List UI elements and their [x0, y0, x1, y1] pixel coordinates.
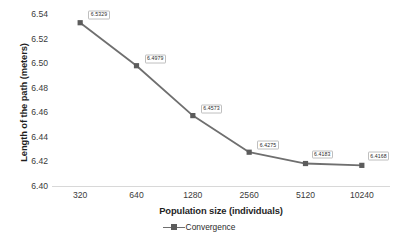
data-point-marker: [247, 150, 252, 155]
data-point-marker: [303, 161, 308, 166]
x-tick-label: 320: [73, 190, 87, 200]
data-point-label: 6.4979: [145, 54, 166, 63]
y-tick-label: 6.50: [8, 58, 48, 68]
legend-line-marker-icon: [163, 223, 185, 232]
data-point-label: 6.4573: [201, 104, 222, 113]
plot-area: 6.53296.49796.45736.42756.41836.4168: [52, 14, 390, 187]
x-tick-label: 5120: [296, 190, 315, 200]
data-point-marker: [134, 63, 139, 68]
convergence-markers: [78, 20, 365, 168]
x-axis-title: Population size (individuals): [52, 205, 390, 216]
data-point-label: 6.4275: [257, 141, 278, 150]
x-tick-label: 10240: [350, 190, 374, 200]
data-point-marker: [78, 20, 83, 25]
data-point-label: 6.4168: [368, 152, 389, 161]
x-tick-label: 640: [129, 190, 143, 200]
y-tick-label: 6.44: [8, 132, 48, 142]
x-axis-tick-labels: 32064012802560512010240: [52, 190, 390, 204]
y-tick-label: 6.40: [8, 181, 48, 191]
y-axis-tick-labels: 6.546.526.506.486.466.446.426.40: [8, 14, 48, 186]
series-plot: [52, 14, 390, 186]
convergence-line: [80, 23, 362, 166]
y-tick-label: 6.46: [8, 107, 48, 117]
chart-legend: Convergence: [0, 222, 398, 232]
convergence-line-chart: Length of the path (meters) 6.546.526.50…: [0, 0, 398, 243]
legend-item-convergence[interactable]: Convergence: [163, 222, 236, 232]
x-tick-label: 2560: [240, 190, 259, 200]
x-tick-label: 1280: [183, 190, 202, 200]
data-point-label: 6.5329: [88, 10, 109, 19]
data-point-marker: [190, 113, 195, 118]
data-point-label: 6.4183: [312, 150, 333, 159]
data-point-marker: [359, 163, 364, 168]
legend-label: Convergence: [186, 222, 236, 232]
y-tick-label: 6.42: [8, 156, 48, 166]
y-tick-label: 6.54: [8, 9, 48, 19]
y-tick-label: 6.52: [8, 34, 48, 44]
y-tick-label: 6.48: [8, 83, 48, 93]
